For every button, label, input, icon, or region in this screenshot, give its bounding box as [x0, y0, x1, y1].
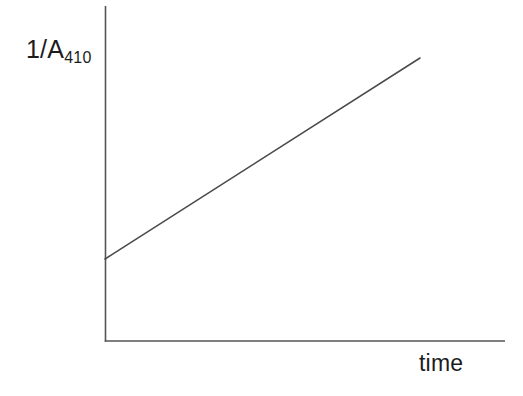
y-axis-label: 1/A410	[26, 37, 92, 62]
y-axis-label-subscript: 410	[64, 49, 92, 66]
y-axis-label-main: 1/A	[26, 35, 64, 63]
x-axis-label: time	[419, 352, 463, 375]
chart-figure: 1/A410 time	[0, 0, 523, 396]
